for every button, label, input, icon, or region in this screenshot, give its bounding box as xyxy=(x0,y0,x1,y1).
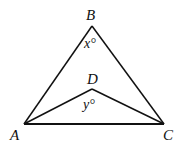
angle-label-y: y° xyxy=(81,97,95,112)
geometry-diagram: B x° D y° A C xyxy=(0,0,182,146)
segment-AD xyxy=(24,89,92,124)
segment-DC xyxy=(92,89,164,124)
segment-BC xyxy=(92,26,164,124)
segment-AB xyxy=(24,26,92,124)
point-label-C: C xyxy=(163,127,174,143)
angle-label-x: x° xyxy=(83,36,96,51)
point-label-D: D xyxy=(86,71,98,87)
point-label-B: B xyxy=(86,7,95,23)
point-label-A: A xyxy=(9,127,20,143)
